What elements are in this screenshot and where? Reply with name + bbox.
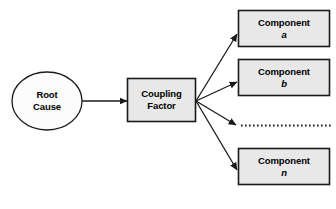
- edge-coupling-to-ellipsis: [196, 101, 236, 125]
- node-component-a[interactable]: [239, 11, 330, 47]
- node-component-n[interactable]: [239, 149, 330, 185]
- edge-coupling-to-component-n: [196, 101, 237, 170]
- diagram-canvas: Root Cause Coupling Factor Component a C…: [0, 0, 336, 209]
- diagram-graphics: [0, 0, 336, 209]
- node-root-cause[interactable]: [12, 72, 82, 130]
- node-coupling-factor[interactable]: [128, 79, 196, 122]
- node-component-b[interactable]: [239, 60, 330, 96]
